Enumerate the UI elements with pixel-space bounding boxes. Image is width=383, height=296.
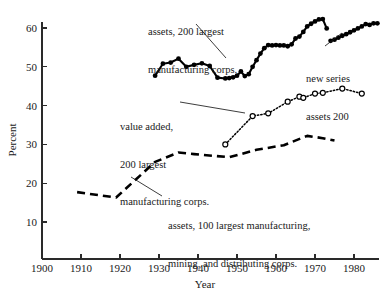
data-point-marker — [285, 99, 290, 104]
annotation-line: 200 largest — [120, 159, 209, 172]
y-tick-label: 20 — [26, 177, 38, 189]
data-point-marker — [250, 64, 255, 69]
y-tick-label: 50 — [26, 61, 38, 73]
data-point-marker — [250, 114, 255, 119]
annotation-line: value added, — [120, 121, 209, 134]
data-point-marker — [246, 72, 251, 77]
data-point-marker — [320, 17, 325, 22]
x-tick-label: 1980 — [343, 262, 366, 274]
data-point-marker — [258, 51, 263, 56]
annotation-line: assets 200 — [306, 111, 350, 124]
data-point-marker — [262, 46, 267, 51]
data-point-marker — [359, 91, 364, 96]
x-tick-label: 1900 — [31, 262, 54, 274]
annotation-line: new series — [306, 73, 350, 86]
y-tick-label: 10 — [26, 216, 38, 228]
data-point-marker — [239, 69, 244, 74]
data-point-marker — [305, 24, 310, 29]
x-tick-label: 1920 — [109, 262, 132, 274]
annotation-line: manufacturing corps. — [148, 64, 237, 77]
annotation-assets-100: assets, 100 largest manufacturing, minin… — [168, 195, 310, 295]
data-point-marker — [297, 34, 302, 39]
y-axis-title: Percent — [6, 124, 18, 157]
annotation-line: assets, 200 largest — [148, 26, 237, 39]
data-point-marker — [375, 21, 380, 26]
y-tick-label: 60 — [26, 22, 38, 34]
data-point-marker — [223, 142, 228, 147]
data-point-marker — [254, 58, 259, 63]
data-point-marker — [266, 111, 271, 116]
x-tick-label: 1910 — [70, 262, 93, 274]
y-tick-label: 40 — [26, 100, 38, 112]
annotation-line: assets, 100 largest manufacturing, — [168, 220, 310, 233]
data-point-marker — [301, 29, 306, 34]
y-tick-label: 30 — [26, 138, 38, 150]
annotation-line: mining, and distributing corps. — [168, 258, 310, 271]
annotation-new-series: new series assets 200 — [306, 48, 350, 148]
data-point-marker — [324, 26, 329, 31]
data-point-marker — [289, 42, 294, 47]
chart-figure: 1020304050601900191019201930194019501960… — [0, 0, 383, 296]
annotation-assets-200: assets, 200 largest manufacturing corps. — [148, 1, 237, 101]
